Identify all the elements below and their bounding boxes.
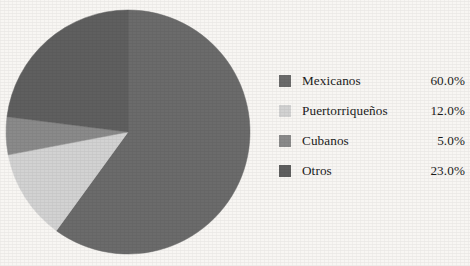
pie-chart <box>0 0 266 266</box>
legend-value: 23.0% <box>419 164 465 177</box>
legend-row[interactable]: Cubanos 5.0% <box>279 126 465 156</box>
legend-value: 5.0% <box>419 134 465 147</box>
legend-row[interactable]: Otros 23.0% <box>279 156 465 186</box>
legend-label: Puertorriqueños <box>302 104 419 117</box>
pie-slice[interactable] <box>7 10 128 132</box>
legend-swatch-icon <box>279 105 291 117</box>
pie-chart-svg <box>0 0 266 266</box>
legend-swatch-icon <box>279 165 291 177</box>
legend-value: 60.0% <box>419 74 465 87</box>
legend-swatch-icon <box>279 75 291 87</box>
legend-row[interactable]: Puertorriqueños 12.0% <box>279 96 465 126</box>
legend-row[interactable]: Mexicanos 60.0% <box>279 66 465 96</box>
legend-label: Cubanos <box>302 134 419 147</box>
pie-slice-group <box>6 10 250 254</box>
legend-label: Mexicanos <box>302 74 419 87</box>
pie-chart-figure: Mexicanos 60.0% Puertorriqueños 12.0% Cu… <box>0 0 470 266</box>
legend-swatch-icon <box>279 135 291 147</box>
chart-legend: Mexicanos 60.0% Puertorriqueños 12.0% Cu… <box>279 66 465 186</box>
legend-value: 12.0% <box>419 104 465 117</box>
legend-label: Otros <box>302 164 419 177</box>
